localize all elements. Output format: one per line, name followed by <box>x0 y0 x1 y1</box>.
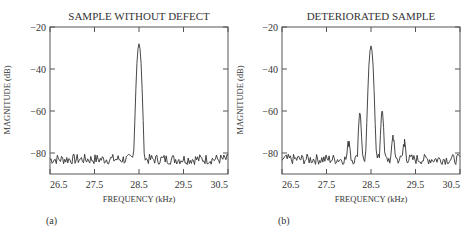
x-axis-a: 26.527.528.529.530.5 <box>50 27 228 190</box>
y-axis-label-a: MAGNITUDE (dB) <box>2 65 12 134</box>
spectrum-line-b <box>282 46 460 165</box>
y-tick-label: −20 <box>262 22 278 33</box>
plot-frame-a <box>50 27 228 174</box>
chart-panel-a: SAMPLE WITHOUT DEFECT −20−40−60−80 26.52… <box>2 10 228 227</box>
x-axis-label-a: FREQUENCY (kHz) <box>103 194 176 204</box>
x-axis-label-b: FREQUENCY (kHz) <box>335 194 408 204</box>
x-tick-label: 28.5 <box>362 179 380 190</box>
x-axis-b: 26.527.528.529.530.5 <box>282 27 460 190</box>
x-tick-label: 27.5 <box>86 179 104 190</box>
plot-frame-b <box>282 27 460 174</box>
spectrum-line-a <box>50 44 228 165</box>
chart-panel-b: DETERIORATED SAMPLE −20−40−60−80 26.527.… <box>235 10 460 227</box>
chart-title-a: SAMPLE WITHOUT DEFECT <box>68 10 210 22</box>
x-tick-label: 30.5 <box>211 179 229 190</box>
x-tick-label: 26.5 <box>282 179 300 190</box>
y-tick-label: −20 <box>30 22 46 33</box>
y-tick-label: −80 <box>262 148 278 159</box>
panel-label-a: (a) <box>46 215 57 227</box>
panel-label-b: (b) <box>278 215 290 227</box>
y-tick-label: −80 <box>30 148 46 159</box>
y-axis-label-b: MAGNITUDE (dB) <box>235 65 245 134</box>
x-tick-label: 29.5 <box>407 179 425 190</box>
y-tick-label: −40 <box>30 64 46 75</box>
x-tick-label: 30.5 <box>443 179 461 190</box>
x-tick-label: 28.5 <box>130 179 148 190</box>
y-axis-a: −20−40−60−80 <box>30 22 228 159</box>
chart-canvas: SAMPLE WITHOUT DEFECT −20−40−60−80 26.52… <box>0 0 473 239</box>
y-tick-label: −40 <box>262 64 278 75</box>
y-tick-label: −60 <box>30 106 46 117</box>
x-tick-label: 29.5 <box>175 179 193 190</box>
x-tick-label: 26.5 <box>50 179 68 190</box>
y-tick-label: −60 <box>262 106 278 117</box>
chart-title-b: DETERIORATED SAMPLE <box>307 10 436 22</box>
y-axis-b: −20−40−60−80 <box>262 22 460 159</box>
x-tick-label: 27.5 <box>318 179 336 190</box>
